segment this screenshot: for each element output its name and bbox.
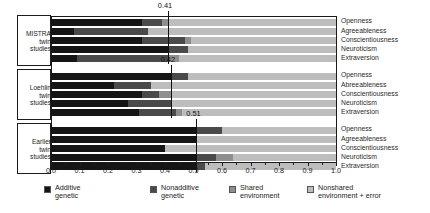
trait-label: Conscientiousness [341, 36, 398, 43]
group-mean-line [196, 119, 197, 172]
group-mean-line [171, 65, 172, 118]
group-mean-label: 0.41 [158, 2, 172, 10]
bar-segment-nonadditive [77, 55, 168, 62]
bar-segment-nonadditive [74, 28, 148, 35]
bar-segment-shared [216, 154, 233, 161]
bar-row [51, 100, 336, 107]
x-tick-minor [322, 163, 323, 165]
bar-segment-nonshared [188, 46, 336, 53]
bar-segment-additive [51, 91, 142, 98]
group-label: Earliertwinstudies [17, 138, 51, 161]
x-tick-label: 0.0 [38, 167, 64, 175]
bar-segment-additive [51, 136, 196, 143]
bar-segment-additive [51, 82, 114, 89]
bar-segment-nonshared [196, 136, 336, 143]
bar-segment-nonshared [151, 82, 336, 89]
bar-row [51, 136, 336, 143]
bar-row [51, 154, 336, 161]
bar-segment-additive [51, 37, 142, 44]
x-tick-minor [122, 163, 123, 165]
chart-figure: 0.410.420.51 MISTRAtwinstudiesLoehlintwi… [0, 0, 430, 213]
trait-label: Openness [341, 71, 372, 78]
x-tick-minor [208, 163, 209, 165]
bar-segment-nonadditive [142, 91, 159, 98]
bar-segment-nonshared [165, 145, 336, 152]
legend-label: Nonsharedenvironment + error [318, 184, 381, 200]
legend-label-line: genetic [161, 192, 199, 200]
legend-swatch [150, 186, 157, 193]
bar-segment-nonadditive [142, 37, 185, 44]
bar-row [51, 145, 336, 152]
legend-label: Sharedenvironment [240, 184, 280, 200]
trait-label: Extraversion [341, 54, 379, 61]
group-label: MISTRAtwinstudies [17, 30, 51, 53]
x-tick-minor [94, 163, 95, 165]
bar-row [51, 127, 336, 134]
trait-label: Abreeableness [341, 81, 386, 88]
bar-segment-nonadditive [168, 46, 188, 53]
trait-label: Openness [341, 17, 372, 24]
group-mean-label: 0.42 [161, 56, 175, 64]
group-box-2: Loehlintwinstudies [17, 69, 51, 120]
bar-segment-nonshared [222, 127, 336, 134]
x-tick-label: 0.3 [124, 167, 150, 175]
trait-label: Agreeableness [341, 135, 386, 142]
bar-row [51, 91, 336, 98]
x-tick-label: 0.2 [95, 167, 121, 175]
group-label-line: studies [17, 99, 51, 107]
legend-label-line: environment + error [318, 192, 381, 200]
bar-segment-nonadditive [114, 82, 151, 89]
x-tick-label: 0.6 [209, 167, 235, 175]
group-label-line: studies [17, 153, 51, 161]
group-label: Loehlintwinstudies [17, 84, 51, 107]
bar-segment-additive [51, 19, 142, 26]
x-tick-label: 0.9 [295, 167, 321, 175]
legend-swatch [229, 186, 236, 193]
legend-label-line: genetic [55, 192, 81, 200]
bar-row [51, 55, 336, 62]
group-label-line: twin [17, 92, 51, 100]
bar-segment-nonshared [233, 154, 336, 161]
legend-label: Nonadditivegenetic [161, 184, 199, 200]
bar-segment-nonadditive [142, 19, 162, 26]
x-tick-label: 1.0 [323, 167, 349, 175]
bar-segment-nonshared [191, 37, 336, 44]
group-label-line: twin [17, 146, 51, 154]
x-tick-label: 0.8 [266, 167, 292, 175]
x-tick-minor [65, 163, 66, 165]
group-label-line: MISTRA [17, 30, 51, 38]
legend-swatch [44, 186, 51, 193]
group-label-line: twin [17, 38, 51, 46]
bar-segment-nonshared [188, 73, 336, 80]
bar-segment-additive [51, 46, 168, 53]
x-tick-label: 0.4 [152, 167, 178, 175]
bar-segment-nonshared [182, 109, 336, 116]
x-tick-label: 0.1 [67, 167, 93, 175]
bar-row [51, 46, 336, 53]
bar-segment-nonshared [168, 19, 336, 26]
trait-label: Agreeableness [341, 27, 386, 34]
bar-segment-nonshared [179, 55, 336, 62]
bar-segment-additive [51, 154, 196, 161]
x-tick-minor [151, 163, 152, 165]
bar-row [51, 73, 336, 80]
bar-segment-additive [51, 109, 139, 116]
x-tick-minor [179, 163, 180, 165]
plot-area: 0.410.420.51 [51, 16, 336, 162]
group-label-line: studies [17, 45, 51, 53]
group-label-line: Earlier [17, 138, 51, 146]
trait-label: Neuroticism [341, 99, 377, 106]
bar-segment-additive [51, 28, 74, 35]
plot-frame-right [336, 16, 337, 163]
x-tick-label: 0.7 [238, 167, 264, 175]
group-label-line: Loehlin [17, 84, 51, 92]
bar-row [51, 28, 336, 35]
trait-label: Conscientiousness [341, 144, 398, 151]
bar-segment-nonshared [171, 100, 336, 107]
trait-label: Openness [341, 125, 372, 132]
bar-segment-nonadditive [128, 100, 171, 107]
x-tick-minor [265, 163, 266, 165]
bar-segment-nonshared [171, 91, 336, 98]
bar-segment-nonadditive [171, 73, 188, 80]
group-mean-label: 0.51 [186, 110, 200, 118]
